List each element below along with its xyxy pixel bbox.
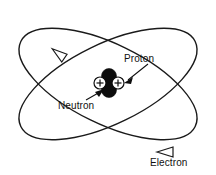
atom-diagram: Proton Neutron Electron (0, 0, 216, 175)
orbit-direction-arrow-upper-left (52, 49, 67, 63)
neutron-label: Neutron (58, 100, 94, 111)
proton-label: Proton (124, 53, 154, 64)
atom-illustration (0, 0, 216, 175)
proton-leader-line (128, 64, 148, 80)
orbit-direction-arrow-lower-right (157, 147, 173, 157)
electron-label: Electron (150, 157, 188, 168)
proton-leader-arrowhead (124, 77, 133, 84)
